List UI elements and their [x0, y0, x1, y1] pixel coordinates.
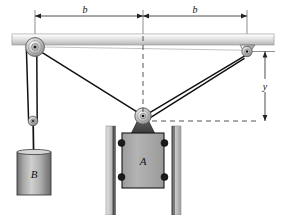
- dimension-b-right: b: [143, 4, 247, 36]
- dimension-y: y: [252, 52, 275, 122]
- block-a: A: [122, 133, 164, 188]
- mechanics-diagram: b b: [0, 0, 285, 215]
- horizontal-reference-line: [44, 47, 243, 50]
- label-block-a: A: [139, 155, 147, 167]
- figure-canvas: b b: [0, 0, 285, 215]
- label-block-b: B: [31, 168, 38, 180]
- left-pulley: [26, 38, 45, 57]
- dim-label-y: y: [262, 81, 268, 92]
- small-sheave-pulley: [28, 116, 38, 126]
- dim-label-b-right: b: [193, 4, 198, 15]
- right-anchor-pulley: [242, 46, 252, 56]
- dim-label-b-left: b: [83, 4, 88, 15]
- dimension-b-left: b: [35, 4, 143, 36]
- cylinder-block-b: B: [17, 149, 51, 195]
